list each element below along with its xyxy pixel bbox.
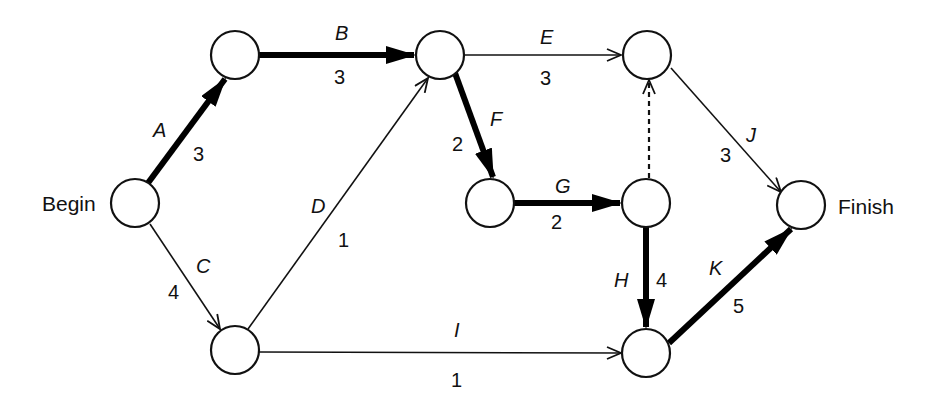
- activity-d-duration: 1: [338, 229, 349, 251]
- network-diagram: Begin Finish A B C D E F G H I J K 3 3 4…: [0, 0, 948, 405]
- activity-c-duration: 4: [168, 281, 179, 303]
- node-6: [211, 326, 259, 374]
- activity-k-arrow: [669, 229, 791, 343]
- activity-e-duration: 3: [540, 67, 551, 89]
- activity-i-arrow: [259, 352, 621, 353]
- activity-h-duration: 4: [656, 269, 667, 291]
- activity-d-arrow: [248, 78, 428, 329]
- activity-h-name: H: [614, 269, 629, 291]
- activity-a-duration: 3: [193, 143, 204, 165]
- activity-f-duration: 2: [452, 133, 463, 155]
- activity-e-name: E: [540, 26, 554, 48]
- node-4: [466, 179, 514, 227]
- node-3: [623, 31, 671, 79]
- activity-k-name: K: [709, 257, 724, 279]
- activity-g-name: G: [555, 175, 571, 197]
- activity-j-arrow: [671, 68, 781, 192]
- node-1: [211, 31, 259, 79]
- activity-f-arrow: [455, 73, 493, 177]
- finish-label: Finish: [838, 195, 894, 218]
- activity-d-name: D: [311, 195, 325, 217]
- activity-j-name: J: [745, 124, 757, 146]
- activity-i-name: I: [454, 319, 460, 341]
- activity-i-duration: 1: [451, 369, 462, 391]
- node-begin: [111, 179, 159, 227]
- node-2: [416, 31, 464, 79]
- activity-a-name: A: [152, 119, 166, 141]
- begin-label: Begin: [42, 192, 96, 215]
- activity-b-duration: 3: [334, 66, 345, 88]
- node-5: [622, 179, 670, 227]
- activity-b-name: B: [335, 22, 348, 44]
- activity-f-name: F: [490, 108, 504, 130]
- activity-j-duration: 3: [720, 144, 731, 166]
- node-7: [622, 329, 670, 377]
- activity-k-duration: 5: [733, 295, 744, 317]
- node-finish: [777, 181, 825, 229]
- activity-c-name: C: [196, 255, 211, 277]
- activity-g-duration: 2: [551, 211, 562, 233]
